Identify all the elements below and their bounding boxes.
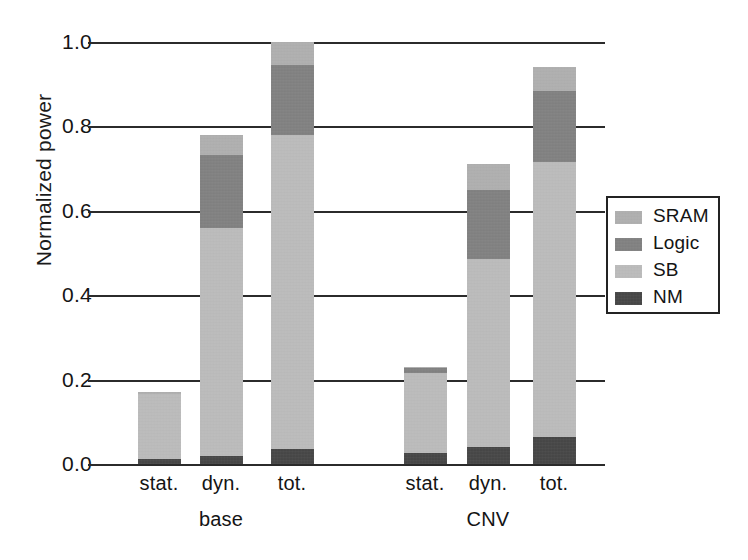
legend-swatch-nm	[615, 292, 642, 305]
bar-segment-sb[interactable]	[271, 135, 314, 449]
axis-baseline	[104, 464, 605, 466]
bar-segment-logic[interactable]	[271, 65, 314, 135]
y-axis-tick-label: 1.0	[34, 30, 92, 54]
bar-segment-sram[interactable]	[467, 164, 510, 189]
bar-stack[interactable]	[404, 367, 447, 464]
chart-figure: Normalized power 1.00.80.60.40.20.0 stat…	[0, 0, 748, 560]
y-axis-tick-label: 0.6	[34, 199, 92, 223]
y-axis-tick-label: 0.0	[34, 452, 92, 476]
bar-segment-sb[interactable]	[138, 394, 181, 459]
bar-stack[interactable]	[138, 392, 181, 464]
x-axis-group-label: CNV	[428, 508, 548, 531]
x-axis-tick-label: tot.	[247, 472, 337, 495]
bar-segment-sb[interactable]	[404, 373, 447, 453]
bar-segment-nm[interactable]	[138, 459, 181, 464]
bar-segment-sb[interactable]	[533, 162, 576, 436]
gridline	[104, 42, 605, 44]
gridline	[104, 295, 605, 297]
gridline	[104, 211, 605, 213]
y-axis-tick-labels: 1.00.80.60.40.20.0	[30, 0, 92, 560]
y-axis-tick-label: 0.2	[34, 368, 92, 392]
bar-stack[interactable]	[271, 42, 314, 464]
y-axis-tick-label: 0.8	[34, 114, 92, 138]
bar-segment-nm[interactable]	[404, 453, 447, 464]
legend-swatch-sb	[615, 265, 642, 278]
legend-label: Logic	[653, 232, 699, 254]
legend-label: NM	[653, 286, 683, 308]
legend-item[interactable]: NM	[615, 288, 717, 310]
legend: SRAMLogicSBNM	[606, 196, 720, 314]
legend-label: SB	[653, 259, 679, 281]
bar-segment-logic[interactable]	[533, 91, 576, 163]
bar-segment-logic[interactable]	[200, 155, 243, 228]
bar-segment-sram[interactable]	[138, 392, 181, 393]
legend-item[interactable]: Logic	[615, 234, 717, 256]
legend-swatch-logic	[615, 238, 642, 251]
bar-segment-nm[interactable]	[271, 449, 314, 464]
bar-segment-sram[interactable]	[271, 42, 314, 65]
x-axis-group-label: base	[161, 508, 281, 531]
bar-segment-nm[interactable]	[200, 456, 243, 464]
bar-segment-logic[interactable]	[467, 190, 510, 260]
legend-item[interactable]: SB	[615, 261, 717, 283]
y-axis-tick-label: 0.4	[34, 283, 92, 307]
y-axis-tick-mark	[88, 42, 104, 44]
y-axis-tick-mark	[88, 211, 104, 213]
bar-segment-sram[interactable]	[200, 135, 243, 155]
bar-segment-sram[interactable]	[533, 67, 576, 90]
bar-segment-nm[interactable]	[533, 437, 576, 464]
x-axis-tick-label: tot.	[509, 472, 599, 495]
bar-segment-sb[interactable]	[467, 259, 510, 447]
y-axis-tick-mark	[88, 126, 104, 128]
y-axis-tick-mark	[88, 295, 104, 297]
legend-label: SRAM	[653, 205, 709, 227]
bar-stack[interactable]	[200, 135, 243, 464]
bar-stack[interactable]	[467, 164, 510, 464]
bar-segment-logic[interactable]	[404, 368, 447, 373]
bar-segment-sram[interactable]	[404, 367, 447, 368]
legend-item[interactable]: SRAM	[615, 207, 717, 229]
y-axis-tick-mark	[88, 380, 104, 382]
gridline	[104, 380, 605, 382]
gridline	[104, 126, 605, 128]
legend-swatch-sram	[615, 211, 642, 224]
bar-segment-nm[interactable]	[467, 447, 510, 464]
bar-segment-sb[interactable]	[200, 228, 243, 456]
y-axis-tick-mark	[88, 464, 104, 466]
plot-area	[104, 42, 605, 464]
bar-stack[interactable]	[533, 67, 576, 464]
